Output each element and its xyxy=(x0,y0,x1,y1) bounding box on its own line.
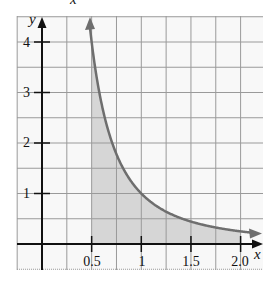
cropped-title-glyph: x xyxy=(69,0,77,7)
x-tick-label: 0.5 xyxy=(83,254,101,269)
y-axis-label: y xyxy=(27,11,36,27)
area-under-curve-chart: x 0.5 1 1.5 2.0 1 2 3 4 x y xyxy=(0,0,263,285)
x-axis-label: x xyxy=(253,246,261,262)
x-tick-label: 2.0 xyxy=(231,254,249,269)
x-tick-label: 1.5 xyxy=(182,254,200,269)
y-tick-label: 3 xyxy=(23,85,30,100)
x-tick-label: 1 xyxy=(139,254,146,269)
y-tick-label: 2 xyxy=(23,135,30,150)
y-tick-label: 1 xyxy=(23,186,30,201)
y-tick-label: 4 xyxy=(23,35,30,50)
